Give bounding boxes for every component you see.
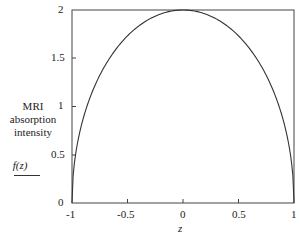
y-tick-2: 2 [58,3,64,15]
x-tick-0-5: 0.5 [232,208,246,220]
function-label-underline [14,175,40,176]
x-ticks [128,199,239,203]
x-axis-label: z [178,222,182,234]
y-label-line-3: intensity [0,126,66,139]
y-axis-function-label: f(z) [0,159,40,171]
y-label-line-2: absorption [0,113,66,126]
y-tick-0-5: 0.5 [51,148,65,160]
y-axis-label: MRI absorption intensity [0,100,66,139]
y-label-line-1: MRI [0,100,66,113]
y-tick-0: 0 [58,196,64,208]
y-tick-1: 1 [58,99,64,111]
x-tick-0: 0 [180,208,186,220]
x-tick-neg0-5: -0.5 [117,208,134,220]
data-curve [72,10,294,203]
y-ticks [72,58,76,155]
x-tick-1: 1 [291,208,297,220]
plot-frame [72,10,294,203]
x-tick-neg1: -1 [66,208,75,220]
y-tick-1-5: 1.5 [51,51,65,63]
